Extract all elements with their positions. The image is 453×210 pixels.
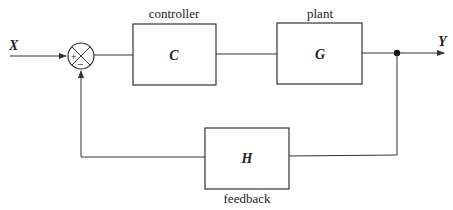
block-diagram: X + – controller C plant G Y feedback H xyxy=(0,0,453,210)
plant-symbol: G xyxy=(315,47,325,62)
minus-sign: – xyxy=(78,59,83,69)
input-label: X xyxy=(8,38,19,53)
plus-sign: + xyxy=(71,52,76,62)
feedback-caption: feedback xyxy=(224,191,271,206)
output-label: Y xyxy=(438,34,448,49)
controller-caption: controller xyxy=(149,6,200,21)
plant-caption: plant xyxy=(307,6,333,21)
feedback-symbol: H xyxy=(241,151,254,166)
summing-junction: + – xyxy=(68,43,94,69)
controller-symbol: C xyxy=(169,48,179,63)
